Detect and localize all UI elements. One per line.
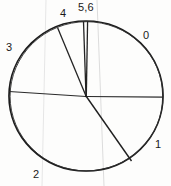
radius-label-3: 3 xyxy=(6,42,12,53)
radius-line-1 xyxy=(86,96,132,161)
center-point xyxy=(85,95,87,97)
radius-label-4: 4 xyxy=(60,8,66,19)
radius-label-0: 0 xyxy=(143,30,149,41)
circle-diagram: 0 1 2 3 4 5,6 xyxy=(0,0,171,186)
radius-line-6 xyxy=(86,21,87,96)
radius-label-5-6: 5,6 xyxy=(78,2,94,13)
faint-vertical-line xyxy=(97,0,104,186)
radius-label-2: 2 xyxy=(33,169,39,180)
circle-diagram-canvas xyxy=(0,0,171,186)
radius-line-5 xyxy=(84,22,87,97)
radius-line-0 xyxy=(86,97,163,98)
radius-line-4 xyxy=(58,28,87,97)
radius-label-1: 1 xyxy=(155,139,161,150)
radius-line-3 xyxy=(9,92,86,97)
